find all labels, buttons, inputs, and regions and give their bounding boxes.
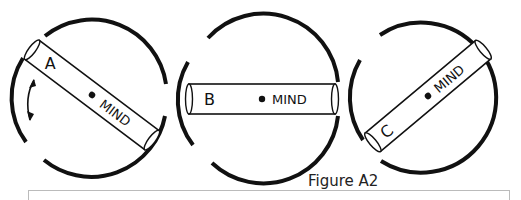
panel-b-label: B <box>204 90 215 109</box>
panel-a-label: A <box>45 54 56 73</box>
figure-diagram: A MIND B MIND C MIND <box>0 0 521 200</box>
text-box-border <box>28 190 510 200</box>
panel-a: A MIND <box>12 20 166 177</box>
panel-b-arc-top <box>208 14 338 82</box>
panel-b: B MIND <box>178 14 339 184</box>
panel-b-mind-label: MIND <box>272 92 307 107</box>
figure-caption: Figure A2 <box>308 172 378 190</box>
panel-b-tube-cap-left <box>186 84 193 114</box>
rotation-arrow-head-up <box>29 79 36 88</box>
panel-a-arc-left <box>12 58 26 142</box>
panel-c: C MIND <box>350 23 496 173</box>
panel-c-arc-left <box>350 60 363 140</box>
rotation-arrow-head-down <box>27 111 34 121</box>
panel-b-tube-cap-right <box>332 84 339 114</box>
panel-b-center-dot <box>259 96 265 102</box>
